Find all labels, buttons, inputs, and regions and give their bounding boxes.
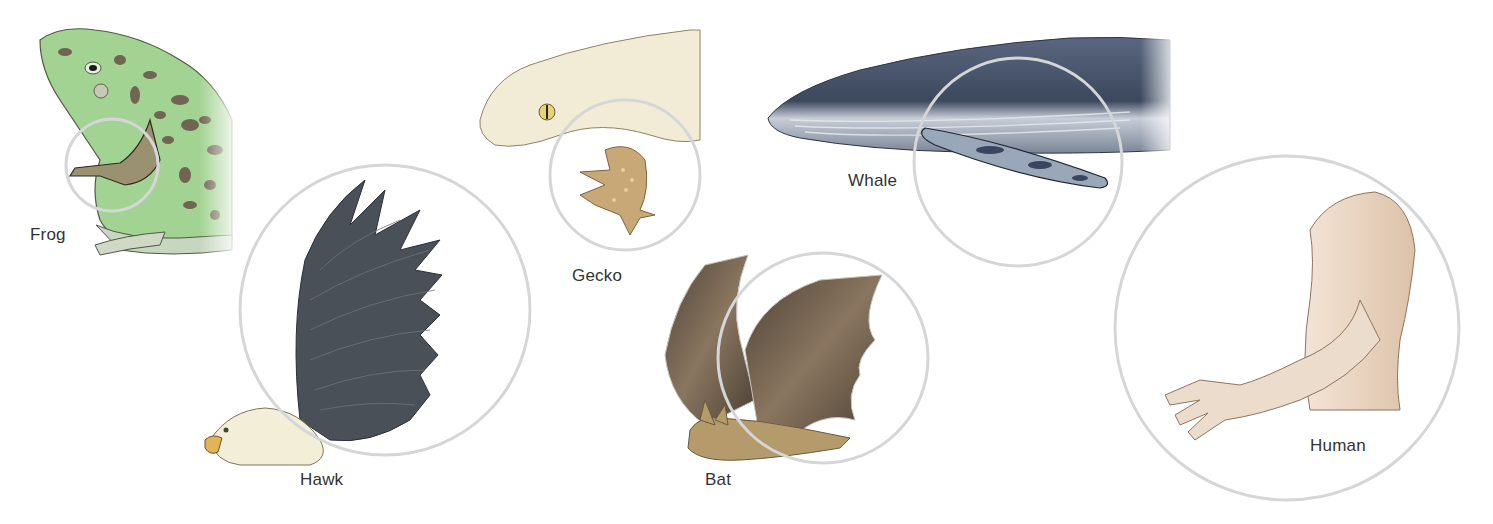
label-human: Human (1310, 436, 1366, 456)
homology-figure: Frog Hawk Gecko Bat Whale Human (0, 0, 1493, 524)
whale-illustration (768, 30, 1180, 188)
label-frog: Frog (30, 225, 66, 245)
label-hawk: Hawk (300, 470, 343, 490)
label-gecko: Gecko (572, 266, 622, 286)
illustration-canvas (0, 0, 1493, 524)
human-limb-circle (1115, 156, 1459, 500)
label-whale: Whale (848, 171, 897, 191)
bat-illustration (665, 255, 882, 460)
gecko-illustration (480, 30, 700, 235)
human-illustration (1165, 192, 1415, 440)
label-bat: Bat (705, 470, 731, 490)
